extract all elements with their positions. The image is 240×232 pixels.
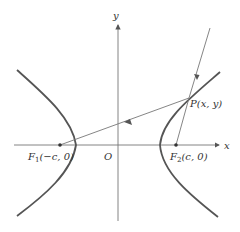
focus-f1-label: F1(−c, 0) — [27, 151, 74, 164]
point-p-label: P(x, y) — [189, 98, 222, 109]
origin-label: O — [104, 151, 112, 162]
y-axis-label: y — [112, 10, 119, 21]
focus-f2-dot — [174, 143, 178, 147]
focus-f2-label: F2(c, 0) — [169, 151, 208, 164]
hyperbola-diagram: y x O P(x, y) F1(−c, 0) F2(c, 0) — [0, 0, 240, 232]
focus-f1-dot — [58, 143, 62, 147]
hyperbola-left-branch — [17, 70, 76, 216]
incident-ray — [189, 28, 210, 98]
x-axis-label: x — [224, 140, 230, 151]
